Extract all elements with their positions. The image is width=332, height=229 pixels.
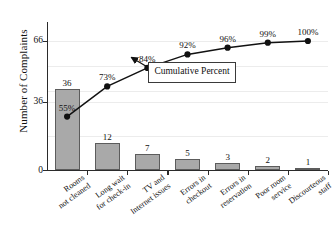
x-tick-mark-6 — [328, 171, 329, 175]
x-axis-label-2: TV andInternet issues — [123, 173, 172, 216]
bar-value-label-5: 2 — [266, 155, 271, 165]
x-axis-label-3: Errors incheckout — [178, 173, 213, 206]
x-axis-labels: Roomsnot cleanedLong waitfor check-inTV … — [47, 173, 328, 229]
x-axis-label-6: Discourteousstaff — [287, 173, 332, 214]
bar-value-label-4: 3 — [225, 152, 230, 162]
y-axis-tick-labels: 66 36 0 — [20, 0, 43, 229]
cumulative-marker-0[interactable] — [64, 114, 70, 120]
cumulative-marker-3[interactable] — [184, 51, 190, 57]
cumulative-percent-label-3: 92% — [179, 40, 196, 50]
cumulative-percent-label-5: 99% — [260, 29, 277, 39]
plot-area: 55%73%84%92%96%99%100% 361275321 — [47, 22, 328, 171]
cumulative-marker-1[interactable] — [104, 83, 110, 89]
cumulative-percent-label-1: 73% — [99, 72, 116, 82]
bar-value-label-2: 7 — [145, 143, 150, 153]
x-axis-label-0: Roomsnot cleaned — [51, 173, 93, 211]
cumulative-percent-label-6: 100% — [297, 27, 318, 37]
bar-value-label-3: 5 — [185, 148, 190, 158]
y-tick-label-36: 36 — [21, 96, 43, 106]
bar-value-label-1: 12 — [103, 132, 112, 142]
cumulative-marker-4[interactable] — [225, 45, 231, 51]
pareto-chart: Number of Complaints 66 36 0 55%73%84%92… — [0, 0, 332, 229]
cumulative-percent-label-0: 55% — [59, 103, 76, 113]
x-axis-label-4: Errors inreservation — [212, 173, 253, 210]
y-tick-label-66: 66 — [21, 35, 43, 45]
callout-line-2: Percent — [201, 66, 230, 76]
cumulative-percent-callout: Cumulative Percent — [148, 62, 236, 83]
cumulative-marker-6[interactable] — [305, 38, 311, 44]
bar-value-label-0: 36 — [63, 78, 72, 88]
cumulative-marker-5[interactable] — [265, 40, 271, 46]
bar-value-label-6: 1 — [306, 157, 311, 167]
x-axis-label-5: Poor roomservice — [254, 173, 293, 209]
callout-line-1: Cumulative — [154, 66, 198, 76]
cumulative-percent-label-4: 96% — [219, 34, 236, 44]
y-tick-label-0: 0 — [21, 165, 43, 175]
